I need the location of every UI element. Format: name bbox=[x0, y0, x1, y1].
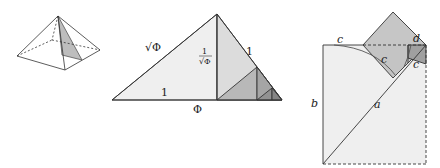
label-sqrt-phi: √Φ bbox=[145, 41, 161, 54]
label-b: b bbox=[311, 97, 318, 110]
label-side-one: 1 bbox=[246, 45, 253, 58]
label-c-right: c bbox=[413, 58, 419, 71]
figure-canvas: √Φ 1 √Φ 1 1 Φ c c d c b a bbox=[0, 0, 440, 168]
label-c-inner: c bbox=[381, 53, 387, 66]
label-inv-sqrt-phi-num: 1 bbox=[202, 47, 207, 56]
kepler-triangle-panel bbox=[112, 14, 282, 100]
label-inv-sqrt-phi-den: √Φ bbox=[199, 57, 211, 66]
pyramid-panel bbox=[17, 16, 100, 70]
label-c-top: c bbox=[337, 33, 343, 46]
label-phi: Φ bbox=[193, 103, 202, 116]
label-a: a bbox=[374, 98, 381, 111]
label-base-one: 1 bbox=[161, 86, 168, 99]
label-d: d bbox=[413, 32, 420, 45]
